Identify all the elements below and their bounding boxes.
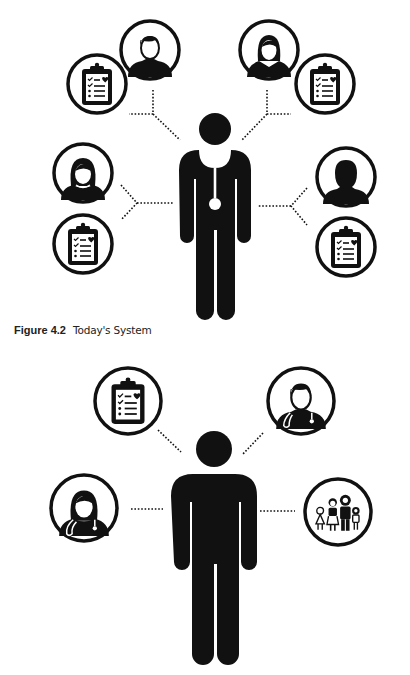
diagram-canvas [0, 0, 410, 675]
patient-figure-icon [171, 431, 257, 665]
node-clipboard-top-left [95, 368, 161, 434]
node-doctor-male-top-right [268, 368, 334, 434]
figure-caption-label: Figure 4.2 [14, 324, 66, 336]
doctor-figure-icon [179, 113, 251, 320]
figure-caption-title: Today's System [73, 324, 151, 336]
node-clipboard-lower-right [317, 218, 375, 276]
clipboard-icon [112, 377, 145, 423]
node-clipboard-upper-left [68, 55, 126, 113]
node-patient-female-middle-left [54, 144, 112, 202]
node-family-right [305, 479, 371, 545]
clipboard-icon [331, 226, 361, 268]
node-patient-male-top-left [121, 21, 179, 79]
node-clipboard-lower-left [54, 215, 112, 273]
node-patient-female-top-right [240, 21, 298, 79]
figure-todays-system [54, 21, 375, 320]
node-clipboard-upper-right [296, 55, 354, 113]
node-doctor-female-left [51, 475, 117, 541]
node-patient-person-middle-right [317, 148, 375, 206]
clipboard-icon [82, 63, 112, 105]
figure-caption: Figure 4.2 Today's System [14, 324, 151, 336]
figure-patient-centered-system [51, 368, 371, 665]
clipboard-icon [68, 223, 98, 265]
clipboard-icon [310, 63, 340, 105]
